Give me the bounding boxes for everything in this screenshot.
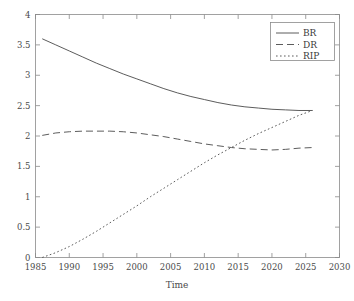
y-tick-label: 2 (25, 131, 30, 141)
y-tick-label: 0.5 (17, 222, 31, 232)
legend-label-dr: DR (303, 40, 317, 50)
x-tick-label: 2005 (160, 262, 182, 272)
x-tick-label: 2000 (126, 262, 148, 272)
x-tick-label: 1990 (58, 262, 80, 272)
x-axis-title: Time (166, 280, 189, 290)
chart-figure: 1985199019952000200520102015202020252030… (0, 0, 354, 301)
y-tick-label: 4 (25, 10, 30, 20)
y-tick-label: 1.5 (17, 161, 31, 171)
y-tick-label: 0 (25, 253, 30, 263)
y-tick-label: 3.5 (17, 40, 31, 50)
chart-legend: BRDRRIP (271, 23, 335, 62)
x-tick-label: 1985 (25, 262, 47, 272)
legend-label-br: BR (303, 28, 317, 38)
x-tick-label: 2020 (261, 262, 283, 272)
y-tick-label: 1 (25, 192, 30, 202)
x-tick-label: 2015 (227, 262, 249, 272)
y-tick-label: 3 (25, 70, 30, 80)
x-tick-label: 1995 (92, 262, 114, 272)
y-tick-label: 2.5 (17, 101, 31, 111)
line-chart: 1985199019952000200520102015202020252030… (0, 0, 354, 301)
x-tick-label: 2030 (329, 262, 351, 272)
x-tick-label: 2025 (295, 262, 317, 272)
x-tick-label: 2010 (194, 262, 216, 272)
legend-label-rip: RIP (303, 51, 319, 61)
